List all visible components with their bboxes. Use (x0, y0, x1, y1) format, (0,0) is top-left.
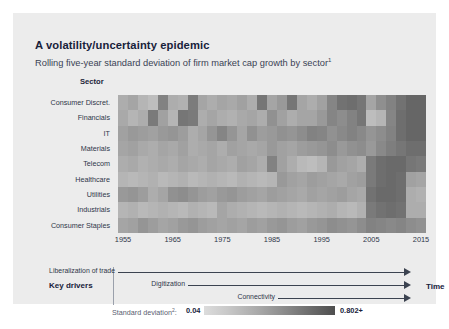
heatmap-cell (406, 141, 416, 156)
heatmap-cell (128, 202, 138, 217)
heatmap-cell (416, 202, 426, 217)
heatmap-cell (307, 202, 317, 217)
heatmap-cell (138, 202, 148, 217)
heatmap-cell (227, 187, 237, 202)
heatmap-cell (277, 141, 287, 156)
heatmap-cell (327, 141, 337, 156)
heatmap-cell (416, 156, 426, 171)
heatmap-cell (307, 187, 317, 202)
heatmap-cell (416, 218, 426, 233)
y-axis-tick-label: Healthcare (13, 172, 114, 187)
heatmap-cell (307, 156, 317, 171)
heatmap-cell (287, 156, 297, 171)
heatmap-cell (148, 126, 158, 141)
heatmap-cell (337, 202, 347, 217)
heatmap-cell (227, 110, 237, 125)
chart-panel: A volatility/uncertainty epidemic Rollin… (13, 13, 436, 304)
heatmap-cell (307, 172, 317, 187)
heatmap-cell (148, 172, 158, 187)
heatmap-row (118, 156, 426, 171)
heatmap-cell (366, 95, 376, 110)
heatmap-cell (327, 202, 337, 217)
heatmap-cell (357, 218, 367, 233)
heatmap-cell (277, 95, 287, 110)
heatmap-cell (178, 172, 188, 187)
arrow-right-icon (404, 268, 411, 276)
x-axis-tick-label: 1955 (115, 235, 131, 244)
heatmap-cell (158, 156, 168, 171)
heatmap-cell (217, 95, 227, 110)
heatmap-cell (247, 95, 257, 110)
heatmap-cell (128, 172, 138, 187)
heatmap-cell (317, 202, 327, 217)
heatmap-cell (327, 218, 337, 233)
heatmap-cell (386, 126, 396, 141)
heatmap-cell (257, 202, 267, 217)
heatmap-cell (287, 95, 297, 110)
heatmap-cell (277, 172, 287, 187)
heatmap-cell (406, 187, 416, 202)
heatmap-cell (247, 110, 257, 125)
heatmap-cell (357, 172, 367, 187)
legend-gradient-bar (204, 306, 335, 315)
heatmap-cell (138, 95, 148, 110)
heatmap-cell (188, 187, 198, 202)
heatmap-cell (406, 110, 416, 125)
y-axis-tick-label: Consumer Discret. (13, 95, 114, 110)
key-drivers-label: Key drivers (49, 281, 93, 290)
heatmap-cell (406, 218, 416, 233)
heatmap-cell (188, 141, 198, 156)
legend: Standard deviation2: 0.04 0.802+ (0, 304, 449, 318)
heatmap-cell (366, 187, 376, 202)
heatmap-cell (158, 218, 168, 233)
x-axis-labels: 1955196519751985199520052015 (118, 235, 426, 247)
heatmap-cell (297, 126, 307, 141)
heatmap-cell (138, 172, 148, 187)
heatmap-cell (198, 202, 208, 217)
x-axis-tick-label: 1985 (264, 235, 280, 244)
heatmap-cell (158, 202, 168, 217)
key-driver-item: Digitization (188, 281, 411, 291)
heatmap-cell (317, 172, 327, 187)
heatmap-cell (406, 126, 416, 141)
heatmap-cell (347, 141, 357, 156)
heatmap-cell (307, 218, 317, 233)
heatmap-cell (376, 156, 386, 171)
heatmap-cell (386, 95, 396, 110)
heatmap-cell (267, 202, 277, 217)
heatmap-cell (178, 126, 188, 141)
y-axis-tick-label: Utilities (13, 187, 114, 202)
heatmap-cell (317, 187, 327, 202)
heatmap-cell (396, 110, 406, 125)
heatmap-cell (207, 156, 217, 171)
heatmap-cell (207, 110, 217, 125)
heatmap-cell (357, 141, 367, 156)
heatmap-cell (337, 141, 347, 156)
key-driver-label: Connectivity (237, 293, 275, 300)
y-axis-labels: Consumer Discret.FinancialsITMaterialsTe… (13, 95, 114, 233)
heatmap-cell (267, 187, 277, 202)
heatmap-cell (188, 172, 198, 187)
heatmap-cell (178, 202, 188, 217)
heatmap-cell (227, 141, 237, 156)
heatmap-cell (237, 126, 247, 141)
heatmap-cell (386, 141, 396, 156)
heatmap-cell (207, 187, 217, 202)
heatmap-cell (406, 95, 416, 110)
heatmap-cell (376, 218, 386, 233)
heatmap-cell (317, 156, 327, 171)
heatmap-cell (138, 110, 148, 125)
heatmap-cell (386, 218, 396, 233)
heatmap-cell (168, 141, 178, 156)
heatmap-cell (207, 172, 217, 187)
heatmap-cell (168, 172, 178, 187)
heatmap-cell (376, 126, 386, 141)
heatmap-cell (347, 126, 357, 141)
heatmap-cell (227, 156, 237, 171)
heatmap-cell (297, 156, 307, 171)
heatmap-cell (416, 126, 426, 141)
heatmap-cell (168, 187, 178, 202)
heatmap-cell (267, 156, 277, 171)
heatmap-cell (267, 218, 277, 233)
heatmap-cell (366, 218, 376, 233)
